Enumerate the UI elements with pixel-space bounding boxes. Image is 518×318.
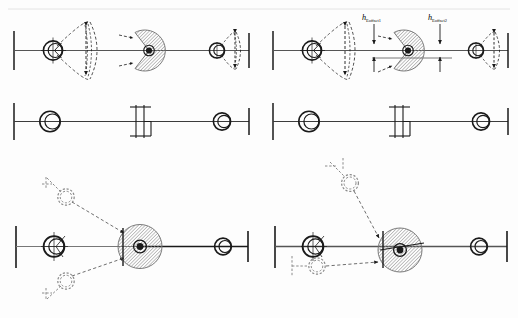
dashed-link-upper: [72, 202, 124, 233]
disc-center-dot: [137, 243, 144, 250]
bearing-left: [41, 232, 68, 261]
ghost-bearing-upper: [325, 158, 358, 191]
ghost-bearing-lower: [292, 256, 325, 276]
panel-mid-right: [273, 103, 508, 140]
dashed-link-upper: [354, 191, 379, 238]
disc-center-dot: [146, 47, 152, 53]
disc-center-dot: [405, 47, 411, 53]
diagram-svg: hEoffset1 hEoffset2: [0, 0, 518, 318]
notch-arrows: [378, 36, 392, 72]
label-h-eoffset2: hEoffset2: [428, 13, 447, 23]
panel-top-left: [14, 22, 249, 80]
panel-mid-left: [14, 103, 249, 140]
panel-bottom-left: [16, 177, 248, 300]
eccentric-disc: [378, 228, 424, 272]
label-h-eoffset1: hEoffset1: [362, 13, 381, 23]
figure-canvas: hEoffset1 hEoffset2: [0, 0, 518, 318]
panel-bottom-right: [275, 158, 507, 276]
bearing-left: [301, 232, 327, 261]
dashed-link-lower: [72, 258, 124, 276]
eccentric-disc: [118, 225, 162, 269]
ghost-bearing-upper: [42, 177, 74, 205]
panel-top-right: hEoffset1 hEoffset2: [273, 13, 508, 80]
dashed-link-lower: [326, 262, 378, 266]
ghost-bearing-lower: [42, 273, 74, 300]
